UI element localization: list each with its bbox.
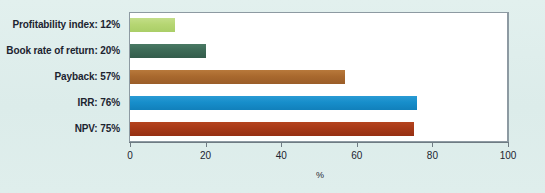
plot-right-border: [508, 12, 509, 143]
x-tick-40: [281, 142, 282, 147]
x-tick-20: [206, 142, 207, 147]
bars-layer: [130, 12, 508, 142]
x-tick-0: [130, 142, 131, 147]
bar-irr: [130, 96, 417, 110]
x-tick-60: [357, 142, 358, 147]
x-axis-title: %: [316, 170, 324, 180]
x-tick-label-20: 20: [200, 150, 211, 161]
x-tick-label-40: 40: [276, 150, 287, 161]
category-label-irr: IRR: 76%: [77, 96, 120, 110]
category-label-book-rate-of-return: Book rate of return: 20%: [6, 44, 120, 58]
x-tick-80: [432, 142, 433, 147]
category-label-payback: Payback: 57%: [54, 70, 120, 84]
category-axis-labels: Profitability index: 12% Book rate of re…: [0, 12, 124, 142]
x-axis-line: [129, 142, 509, 143]
bar-book-rate-of-return: [130, 44, 206, 58]
x-tick-100: [508, 142, 509, 147]
bar-profitability-index: [130, 18, 175, 32]
horizontal-bar-chart: Profitability index: 12% Book rate of re…: [0, 0, 545, 193]
bar-payback: [130, 70, 345, 84]
bar-npv: [130, 122, 414, 136]
x-tick-label-60: 60: [351, 150, 362, 161]
category-label-profitability-index: Profitability index: 12%: [12, 18, 120, 32]
x-tick-label-80: 80: [427, 150, 438, 161]
x-tick-label-100: 100: [500, 150, 517, 161]
x-tick-label-0: 0: [127, 150, 133, 161]
category-label-npv: NPV: 75%: [75, 122, 120, 136]
